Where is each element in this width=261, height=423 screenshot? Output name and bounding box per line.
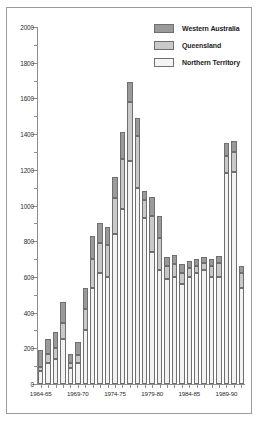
bar-segment-nt — [38, 371, 43, 384]
bar-segment-wa — [172, 255, 177, 264]
x-tick — [70, 385, 71, 388]
x-tick — [56, 385, 57, 388]
bar-segment-nt — [149, 252, 154, 384]
legend-item-western-australia: Western Australia — [154, 21, 240, 35]
x-axis-tick-label: 1964-65 — [30, 390, 52, 397]
bar-1989-90 — [224, 143, 229, 384]
bar-1971-72 — [90, 236, 95, 384]
x-tick — [41, 385, 42, 388]
bar-segment-qld — [231, 152, 236, 172]
bar-segment-wa — [45, 339, 50, 353]
bar-segment-nt — [90, 288, 95, 384]
bar-series-group — [37, 27, 245, 384]
x-tick — [234, 385, 235, 388]
bar-segment-qld — [38, 367, 43, 371]
bar-segment-qld — [179, 273, 184, 284]
bar-segment-wa — [157, 216, 162, 237]
x-axis-tick-label: 1979-80 — [141, 390, 163, 397]
bar-segment-wa — [201, 257, 206, 262]
bar-segment-wa — [68, 354, 73, 364]
bar-segment-qld — [172, 264, 177, 276]
bar-1979-80 — [149, 197, 154, 384]
x-tick — [241, 385, 242, 388]
x-tick — [48, 385, 49, 388]
bar-segment-qld — [157, 238, 162, 270]
bar-segment-wa — [142, 191, 147, 200]
bar-segment-qld — [112, 198, 117, 234]
bar-segment-qld — [105, 245, 110, 277]
x-tick — [160, 385, 161, 388]
bar-1976-77 — [127, 82, 132, 384]
bar-segment-nt — [194, 273, 199, 384]
legend-label-northern-territory: Northern Territory — [182, 59, 240, 66]
bar-1983-84 — [179, 264, 184, 384]
bar-segment-qld — [68, 363, 73, 367]
bar-segment-wa — [187, 261, 192, 268]
x-tick — [137, 385, 138, 388]
y-axis-tick-label: 200 — [24, 345, 34, 352]
bar-1982-83 — [172, 255, 177, 384]
bar-1980-81 — [157, 216, 162, 384]
bar-segment-wa — [216, 256, 221, 263]
bar-segment-wa — [97, 223, 102, 243]
chart-legend: Western Australia Queensland Northern Te… — [154, 21, 240, 72]
bar-segment-qld — [83, 309, 88, 330]
chart-frame: 0200400600800100012001400160018002000 19… — [6, 7, 252, 414]
bar-segment-nt — [135, 188, 140, 384]
bar-segment-nt — [224, 173, 229, 384]
bar-segment-qld — [90, 259, 95, 288]
x-tick — [152, 385, 153, 388]
bar-segment-wa — [135, 118, 140, 136]
x-tick — [93, 385, 94, 388]
bar-1977-78 — [135, 118, 140, 384]
bar-segment-wa — [231, 141, 236, 152]
bar-1970-71 — [83, 288, 88, 384]
y-axis-tick-label: 1800 — [20, 59, 34, 66]
bar-segment-nt — [216, 277, 221, 384]
x-tick — [63, 385, 64, 388]
x-tick — [197, 385, 198, 388]
bar-segment-wa — [224, 143, 229, 155]
y-axis-tick-label: 600 — [24, 273, 34, 280]
bar-segment-wa — [120, 132, 125, 159]
bar-1988-89 — [216, 255, 221, 384]
bar-segment-nt — [45, 363, 50, 384]
bar-1972-73 — [97, 223, 102, 384]
x-axis-line — [37, 384, 245, 385]
bar-segment-qld — [45, 354, 50, 363]
x-tick — [204, 385, 205, 388]
plot-area: 0200400600800100012001400160018002000 19… — [7, 8, 253, 415]
y-axis-tick-label: 1000 — [20, 202, 34, 209]
bar-segment-wa — [239, 266, 244, 273]
x-tick — [78, 385, 79, 388]
bar-segment-qld — [75, 355, 80, 362]
bar-1981-82 — [164, 257, 169, 384]
x-tick — [219, 385, 220, 388]
bar-segment-qld — [164, 266, 169, 278]
bar-segment-wa — [53, 332, 58, 348]
y-axis-tick-label: 0 — [31, 381, 34, 388]
bar-segment-qld — [142, 200, 147, 218]
y-axis-tick-label: 1200 — [20, 166, 34, 173]
x-tick — [189, 385, 190, 388]
x-axis-tick-label: 1984-85 — [178, 390, 200, 397]
bar-segment-nt — [75, 363, 80, 384]
bar-1984-85 — [187, 261, 192, 384]
bar-1968-69 — [68, 354, 73, 384]
x-tick — [174, 385, 175, 388]
bar-segment-wa — [209, 259, 214, 266]
bar-segment-nt — [239, 288, 244, 384]
bar-1966-67 — [53, 332, 58, 384]
legend-swatch-queensland — [154, 41, 174, 50]
bar-1985-86 — [194, 259, 199, 384]
bar-segment-qld — [194, 266, 199, 273]
x-axis-tick-label: 1989-90 — [216, 390, 238, 397]
x-tick — [122, 385, 123, 388]
bar-1964-65 — [38, 350, 43, 384]
legend-swatch-western-australia — [154, 24, 174, 33]
bar-segment-wa — [194, 259, 199, 266]
bar-1974-75 — [112, 177, 117, 384]
bar-segment-qld — [187, 268, 192, 277]
bar-segment-nt — [112, 234, 117, 384]
bar-segment-qld — [224, 156, 229, 174]
